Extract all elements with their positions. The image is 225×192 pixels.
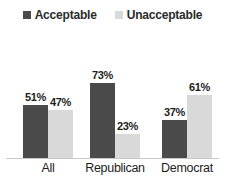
legend-swatch-acceptable-icon <box>23 11 31 19</box>
category-label-republican: Republican <box>85 162 145 175</box>
bar-value-republican-unacceptable: 23% <box>117 121 138 132</box>
legend-item-unacceptable: Unacceptable <box>115 9 203 21</box>
legend-item-acceptable: Acceptable <box>23 9 97 21</box>
bar-all-unacceptable <box>48 110 73 158</box>
bar-democrat-acceptable <box>162 120 187 158</box>
plot-area: 51% 47% 73% 23% 37% 61% <box>0 30 225 159</box>
axis-baseline <box>6 158 219 159</box>
bar-all-acceptable <box>23 105 48 158</box>
bar-value-all-unacceptable: 47% <box>50 97 71 108</box>
grouped-bar-chart: Acceptable Unacceptable 51% 47% 73% 23% … <box>0 0 225 192</box>
category-label-democrat: Democrat <box>161 162 213 175</box>
bar-value-democrat-acceptable: 37% <box>164 107 185 118</box>
legend-label-acceptable: Acceptable <box>35 9 97 21</box>
bar-value-republican-acceptable: 73% <box>92 70 113 81</box>
chart-legend: Acceptable Unacceptable <box>0 5 225 25</box>
legend-label-unacceptable: Unacceptable <box>127 9 203 21</box>
bar-value-all-acceptable: 51% <box>25 92 46 103</box>
bar-republican-acceptable <box>90 83 115 158</box>
category-label-all: All <box>42 162 55 175</box>
bar-republican-unacceptable <box>115 134 140 158</box>
category-axis-labels: All Republican Democrat <box>0 162 225 182</box>
bar-democrat-unacceptable <box>187 95 212 158</box>
bar-value-democrat-unacceptable: 61% <box>189 82 210 93</box>
legend-swatch-unacceptable-icon <box>115 11 123 19</box>
